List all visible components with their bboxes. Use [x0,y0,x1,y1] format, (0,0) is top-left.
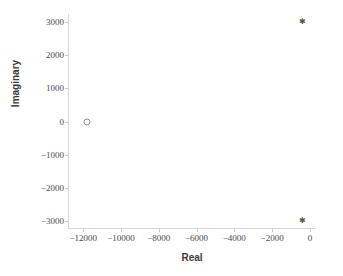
figure-canvas: ✱✱ 3000200010000−1000−2000−3000 −12000−1… [0,0,343,276]
y-axis-title: Imaginary [10,39,21,129]
y-tick-label: 0 [60,117,65,127]
y-axis-tick-labels: 3000200010000−1000−2000−3000 [22,14,64,229]
y-tick-label: −2000 [41,183,64,193]
y-tick-mark [65,55,68,56]
y-tick-label: −1000 [41,150,64,160]
y-tick-label: −3000 [41,216,64,226]
y-tick-mark [65,22,68,23]
x-axis-tick-labels: −12000−10000−8000−6000−4000−20000 [68,233,316,247]
x-tick-mark [234,229,235,232]
x-tick-label: −10000 [107,233,135,243]
data-point-marker [83,118,90,125]
x-tick-label: −6000 [185,233,208,243]
y-tick-label: 3000 [46,17,64,27]
x-tick-mark [121,229,122,232]
x-tick-mark [272,229,273,232]
x-tick-mark [159,229,160,232]
x-tick-mark [310,229,311,232]
data-point-marker: ✱ [298,18,307,27]
y-tick-label: 2000 [46,50,64,60]
y-tick-label: 1000 [46,83,64,93]
y-axis-spine [68,14,69,229]
data-point-marker: ✱ [298,216,307,225]
y-tick-mark [65,221,68,222]
x-tick-label: −12000 [69,233,97,243]
x-tick-mark [197,229,198,232]
y-tick-mark [65,88,68,89]
x-tick-label: −8000 [147,233,170,243]
x-tick-mark [83,229,84,232]
y-tick-mark [65,122,68,123]
x-tick-label: −2000 [261,233,284,243]
x-axis-title: Real [68,252,316,263]
y-tick-mark [65,188,68,189]
y-tick-mark [65,155,68,156]
x-axis-spine [68,228,316,229]
x-tick-label: 0 [308,233,313,243]
plot-area: ✱✱ [68,14,316,229]
x-tick-label: −4000 [223,233,246,243]
